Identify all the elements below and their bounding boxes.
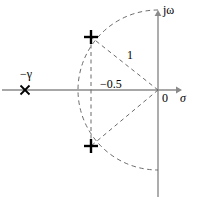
pole-label: −γ (20, 68, 32, 80)
plot-canvas (0, 0, 198, 200)
real-part-label: −0.5 (100, 78, 122, 90)
zero-plus-marker-upper (84, 30, 98, 44)
sigma-axis-label-text: σ (180, 91, 186, 105)
jomega-axis-label: jω (163, 4, 174, 16)
real-part-label-text: −0.5 (100, 77, 122, 91)
sigma-axis-label: σ (180, 92, 186, 104)
jomega-axis-label-text: jω (163, 3, 174, 17)
origin-label-text: 0 (162, 91, 168, 105)
jomega-axis-arrow (155, 10, 162, 16)
pole-zero-figure: jω σ 0 −γ −0.5 1 (0, 0, 198, 200)
origin-label: 0 (162, 92, 168, 104)
radius-label: 1 (127, 49, 133, 61)
radius-guide-lower (91, 90, 158, 146)
radius-label-text: 1 (127, 48, 133, 62)
pole-label-text: −γ (20, 67, 32, 81)
